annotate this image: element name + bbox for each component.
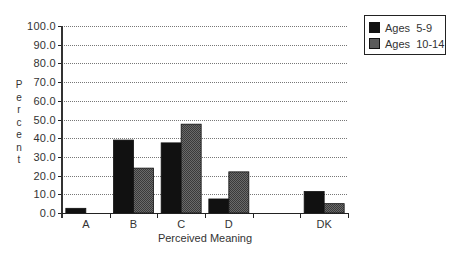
bar-ages-5-9 [209, 199, 229, 213]
x-axis-label: Perceived Meaning [62, 232, 348, 244]
x-tick-label: D [205, 218, 253, 230]
x-tick-label: DK [300, 218, 348, 230]
y-axis-label-letter: t [14, 154, 24, 166]
bar-ages-5-9 [161, 143, 181, 213]
y-axis-label-letter: c [14, 117, 24, 129]
y-tick-label: 10.0 [12, 188, 56, 200]
legend-item-ages-5-9: Ages 5-9 [369, 21, 432, 34]
bars [66, 124, 344, 213]
bar-ages-10-14 [181, 124, 201, 213]
legend-swatch-gray [369, 38, 380, 49]
bar-ages-10-14 [324, 204, 344, 213]
gridlines [62, 27, 348, 195]
y-axis-label-letter: e [14, 92, 24, 104]
legend: Ages 5-9 Ages 10-14 [364, 15, 446, 55]
bar-ages-5-9 [114, 140, 134, 213]
y-axis-label-letter: r [14, 104, 24, 116]
bar-ages-10-14 [134, 168, 154, 213]
legend-label: Ages 10-14 [385, 38, 444, 50]
bar-chart: 0.010.020.030.040.050.060.070.080.090.01… [0, 0, 459, 258]
x-tick-label: C [157, 218, 205, 230]
bar-ages-5-9 [66, 208, 86, 213]
y-axis-label-letter: n [14, 142, 24, 154]
legend-item-ages-10-14: Ages 10-14 [369, 37, 444, 50]
y-tick-label: 90.0 [12, 39, 56, 51]
x-tick-label: B [110, 218, 158, 230]
y-axis-label-letter: e [14, 129, 24, 141]
y-tick-label: 80.0 [12, 57, 56, 69]
legend-label: Ages 5-9 [385, 22, 432, 34]
y-tick-label: 100.0 [12, 20, 56, 32]
axes [58, 26, 349, 218]
bar-ages-5-9 [304, 191, 324, 213]
x-tick-label: A [62, 218, 110, 230]
bar-ages-10-14 [229, 172, 249, 213]
legend-swatch-dark [369, 22, 380, 33]
y-tick-label: 20.0 [12, 170, 56, 182]
y-tick-label: 0.0 [12, 207, 56, 219]
y-axis-label-letter: P [14, 79, 24, 91]
